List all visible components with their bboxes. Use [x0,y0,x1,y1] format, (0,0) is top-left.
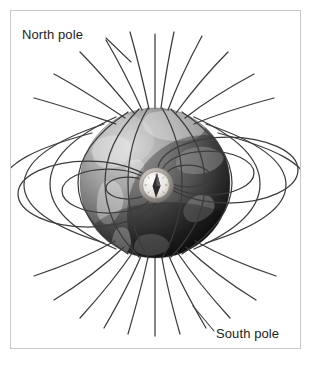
compass [139,168,174,203]
leader-line-north [106,38,131,62]
leader-line-south [193,306,214,331]
label-south-pole: South pole [216,326,279,341]
magnetic-field-diagram [0,0,312,365]
label-north-pole: North pole [22,27,83,42]
figure-page: North pole South pole [0,0,312,365]
